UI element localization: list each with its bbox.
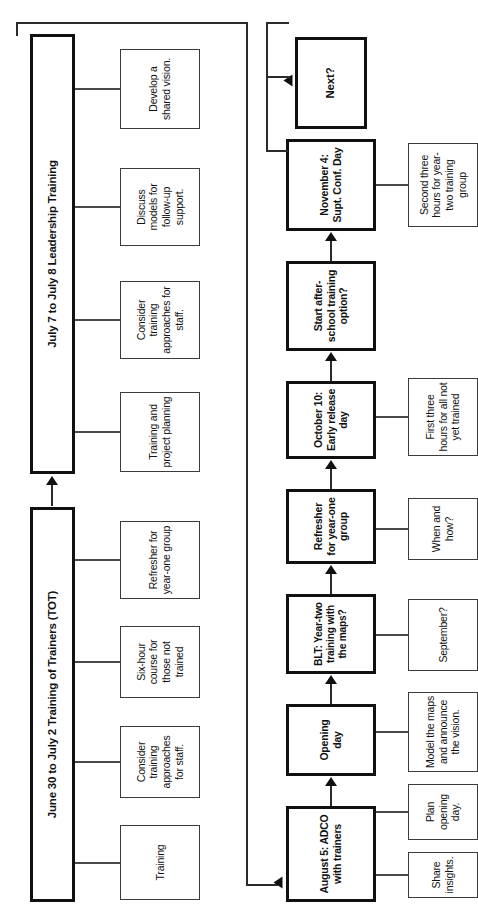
terminal-box-next[interactable]: Next? [295, 37, 367, 129]
timeline-box-opening-day[interactable]: Opening day [286, 704, 376, 776]
note-aug5-plan-opening-day[interactable]: Plan opening day. [408, 784, 478, 840]
note-opening-model-maps[interactable]: Model the maps and announce the vision. [408, 692, 478, 772]
leadership-child-discuss-models[interactable]: Discuss models for follow-up support. [120, 168, 200, 246]
tl-connector-2 [330, 683, 332, 704]
note-stem-model-maps [376, 732, 408, 734]
tl-connector-1 [330, 785, 332, 806]
timeline-box-nov4[interactable]: November 4: Supt. Conf. Day [286, 139, 376, 231]
tot-stem-3 [75, 662, 120, 664]
tl-arrow-5 [325, 352, 337, 361]
tl-arrow-4 [325, 460, 337, 469]
leadership-stem-3 [75, 207, 120, 209]
tl-connector-4 [330, 468, 332, 489]
note-stem-when-how [376, 529, 408, 531]
note-refresher-when-and-how[interactable]: When and how? [408, 498, 478, 560]
connector-tot-to-leadership [51, 484, 53, 506]
tl-arrow-1 [325, 777, 337, 786]
tot-stem-1 [75, 863, 120, 865]
leadership-stem-4 [75, 89, 120, 91]
tl-connector-6 [330, 240, 332, 261]
note-blt-september[interactable]: September? [408, 599, 478, 671]
tot-child-consider-approaches[interactable]: Consider training approaches for staff. [120, 726, 200, 798]
note-stem-second-three [376, 185, 408, 187]
wrap-nov4-stub [266, 150, 288, 152]
tl-connector-5 [330, 360, 332, 381]
leadership-child-consider-approaches[interactable]: Consider training approaches for staff. [120, 281, 200, 359]
note-oct10-first-three-hours[interactable]: First three hours for all not yet traine… [408, 378, 478, 456]
note-aug5-share-insights[interactable]: Share insights. [408, 852, 478, 898]
timeline-box-refresher[interactable]: Refresher for year-one group [286, 489, 376, 564]
phase-banner-leadership[interactable]: July 7 to July 8 Leadership Training [30, 34, 75, 474]
tl-arrow-3 [325, 565, 337, 574]
wrap-leadership-bottom [246, 22, 248, 886]
phase-banner-tot[interactable]: June 30 to July 2 Training of Trainers (… [30, 507, 75, 902]
leadership-stem-1 [75, 432, 120, 434]
note-nov4-second-three-hours[interactable]: Second three hours for year-two training… [408, 143, 478, 227]
note-stem-share-insights [376, 875, 408, 877]
tot-child-six-hour-course[interactable]: Six-hour course for those not trained [120, 626, 200, 698]
note-stem-september [376, 635, 408, 637]
tl-arrow-6 [325, 232, 337, 241]
timeline-box-oct10[interactable]: October 10: Early release day [286, 381, 376, 459]
wrap-nov4-right [266, 22, 289, 24]
tot-stem-4 [75, 560, 120, 562]
leadership-child-develop-vision[interactable]: Develop a shared vision. [120, 49, 200, 129]
tot-stem-2 [75, 762, 120, 764]
note-stem-plan-opening [376, 812, 408, 814]
wrap-leadership-top [16, 22, 18, 36]
leadership-child-training-project-planning[interactable]: Training and project planning [120, 392, 200, 472]
tot-child-training[interactable]: Training [120, 825, 200, 900]
timeline-box-aug5[interactable]: August 5: ADCO with trainers [286, 806, 376, 902]
note-stem-first-three [376, 417, 408, 419]
tl-arrow-2 [325, 675, 337, 684]
wrap-next-feed [266, 76, 290, 78]
timeline-box-blt[interactable]: BLT: Year-two training with the maps? [286, 594, 376, 674]
leadership-stem-2 [75, 320, 120, 322]
timeline-box-afterschool[interactable]: Start after-school training option? [286, 261, 376, 351]
tl-connector-3 [330, 573, 332, 594]
tot-child-refresher-year-one[interactable]: Refresher for year-one group [120, 521, 200, 599]
arrow-tot-to-leadership [46, 476, 58, 485]
wrap-leadership-right [16, 22, 248, 24]
arrow-into-aug5 [274, 877, 283, 889]
wrap-nov4-top [266, 22, 268, 152]
